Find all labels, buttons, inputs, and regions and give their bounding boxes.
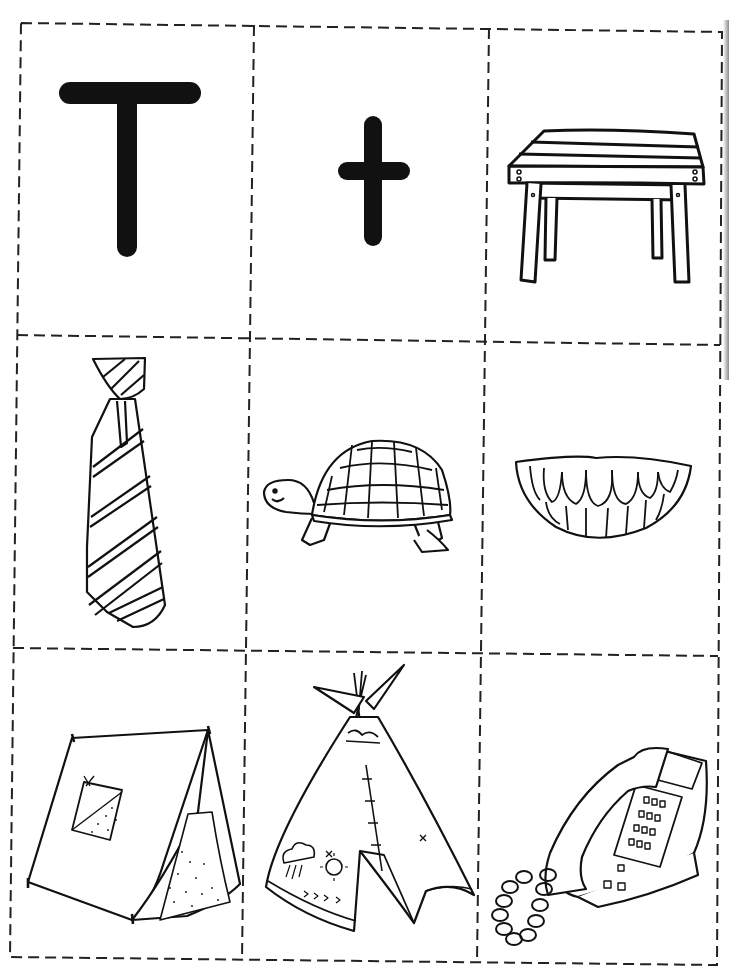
telephone-icon [478,657,716,963]
card-teepee: teepee [244,655,478,961]
card-turtle: turtle [252,340,484,650]
teepee-icon [244,655,478,961]
teeth-icon [486,342,718,652]
tie-icon [17,337,247,648]
tent-icon [12,652,244,960]
turtle-icon [252,340,484,650]
lowercase-t-glyph [254,27,488,337]
card-table: table [489,30,719,342]
table-icon [489,30,719,342]
uppercase-t-glyph [20,25,252,335]
card-teeth: teeth [486,342,718,652]
card-tie: tie [17,337,247,648]
card-telephone: telephone [478,657,716,963]
card-uppercase-t: T [20,25,252,335]
card-tent: tent [12,652,244,960]
card-lowercase-t: t [254,27,488,337]
worksheet-page: T t table [0,0,729,973]
